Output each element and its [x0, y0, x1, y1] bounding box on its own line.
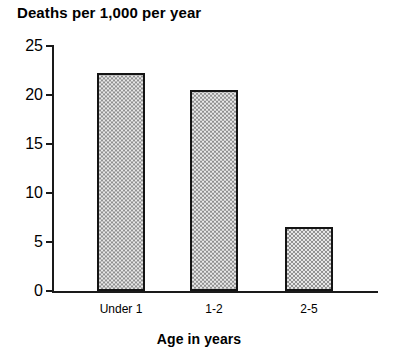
x-label-2-5: 2-5 [254, 302, 364, 316]
bar-chart: Deaths per 1,000 per year 25 20 15 10 5 … [0, 0, 398, 358]
y-axis-line [52, 45, 54, 293]
x-axis-line [52, 291, 378, 293]
plot-area: 25 20 15 10 5 0 Under 1 1-2 2-5 [0, 0, 398, 358]
y-tick-label-20: 20 [3, 87, 43, 103]
bar-1-2 [190, 90, 238, 291]
y-tick-25 [46, 45, 53, 47]
y-tick-0 [46, 290, 53, 292]
x-label-1-2: 1-2 [159, 302, 269, 316]
y-tick-label-10: 10 [3, 185, 43, 201]
y-tick-20 [46, 94, 53, 96]
y-tick-label-5: 5 [3, 234, 43, 250]
y-tick-label-25: 25 [3, 38, 43, 54]
bar-under-1 [97, 73, 145, 291]
y-tick-10 [46, 192, 53, 194]
bar-2-5 [285, 227, 333, 291]
y-tick-label-15: 15 [3, 136, 43, 152]
y-tick-5 [46, 241, 53, 243]
x-axis-title: Age in years [0, 330, 398, 348]
y-tick-15 [46, 143, 53, 145]
y-tick-label-0: 0 [3, 283, 43, 299]
